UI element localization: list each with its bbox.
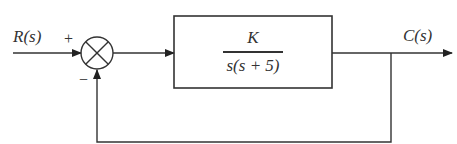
transfer-numerator: K <box>243 28 262 50</box>
minus-sign: − <box>79 72 88 88</box>
transfer-denominator: s(s + 5) <box>226 56 279 76</box>
fraction-bar <box>223 51 283 52</box>
input-label: R(s) <box>13 28 41 45</box>
transfer-function: K s(s + 5) <box>174 16 332 88</box>
output-label: C(s) <box>403 27 432 44</box>
summing-junction <box>81 37 113 69</box>
plus-sign: + <box>64 31 73 47</box>
